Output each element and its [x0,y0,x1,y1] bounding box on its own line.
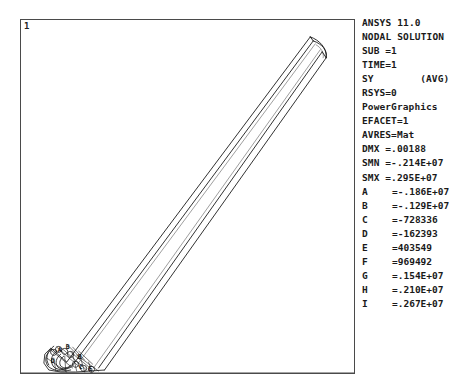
contour-key-g: G [362,269,392,283]
legend-header-solution-type: NODAL SOLUTION [362,30,476,44]
legend-rsys: RSYS=0 [362,86,476,100]
contour-value-c: =-728336 [392,213,476,227]
solution-info-legend: ANSYS 11.0 NODAL SOLUTION SUB =1 TIME=1 … [362,16,476,311]
contour-level-i: I =.267E+07 [362,297,476,311]
contour-key-i: I [362,297,392,311]
legend-avres: AVRES=Mat [362,128,476,142]
contour-value-e: =403549 [392,241,476,255]
contour-level-a: A =-.186E+07 [362,185,476,199]
legend-smn: SMN =-.214E+07 [362,156,476,170]
legend-time: TIME=1 [362,58,476,72]
svg-text:A: A [58,346,62,354]
contour-level-b: B =-.129E+07 [362,199,476,213]
legend-substep: SUB =1 [362,44,476,58]
beam-outline [67,37,326,370]
contour-level-h: H =.210E+07 [362,283,476,297]
legend-dmx: DMX =.00188 [362,142,476,156]
graphics-window-frame: 1 [20,19,355,374]
svg-text:E: E [89,365,93,373]
svg-text:C: C [79,363,83,371]
contour-level-d: D =-162393 [362,227,476,241]
svg-text:B: B [78,353,82,361]
contour-level-c: C =-728336 [362,213,476,227]
contour-level-g: G =.154E+07 [362,269,476,283]
contour-value-h: =.210E+07 [392,283,476,297]
contour-value-b: =-.129E+07 [392,199,476,213]
legend-efacet: EFACET=1 [362,114,476,128]
legend-smx: SMX =.295E+07 [362,171,476,185]
contour-value-g: =.154E+07 [392,269,476,283]
contour-key-b: B [362,199,392,213]
contour-key-d: D [362,227,392,241]
legend-header-ansys-version: ANSYS 11.0 [362,16,476,30]
contour-key-f: F [362,255,392,269]
svg-text:B: B [66,343,70,351]
contour-level-e: E =403549 [362,241,476,255]
contour-key-e: E [362,241,392,255]
contour-key-c: C [362,213,392,227]
svg-text:D: D [51,357,55,365]
contour-key-a: A [362,185,392,199]
legend-graphics-mode: PowerGraphics [362,100,476,114]
contour-value-d: =-162393 [392,227,476,241]
contour-level-f: F =969492 [362,255,476,269]
legend-result-item: SY (AVG) [362,72,476,86]
ansys-plot-screenshot: 1 [0,0,476,389]
contour-value-a: =-.186E+07 [392,185,476,199]
contour-key-h: H [362,283,392,297]
finite-element-model-contour-plot: A B B C E D [21,20,354,373]
contour-value-f: =969492 [392,255,476,269]
contour-value-i: =.267E+07 [392,297,476,311]
